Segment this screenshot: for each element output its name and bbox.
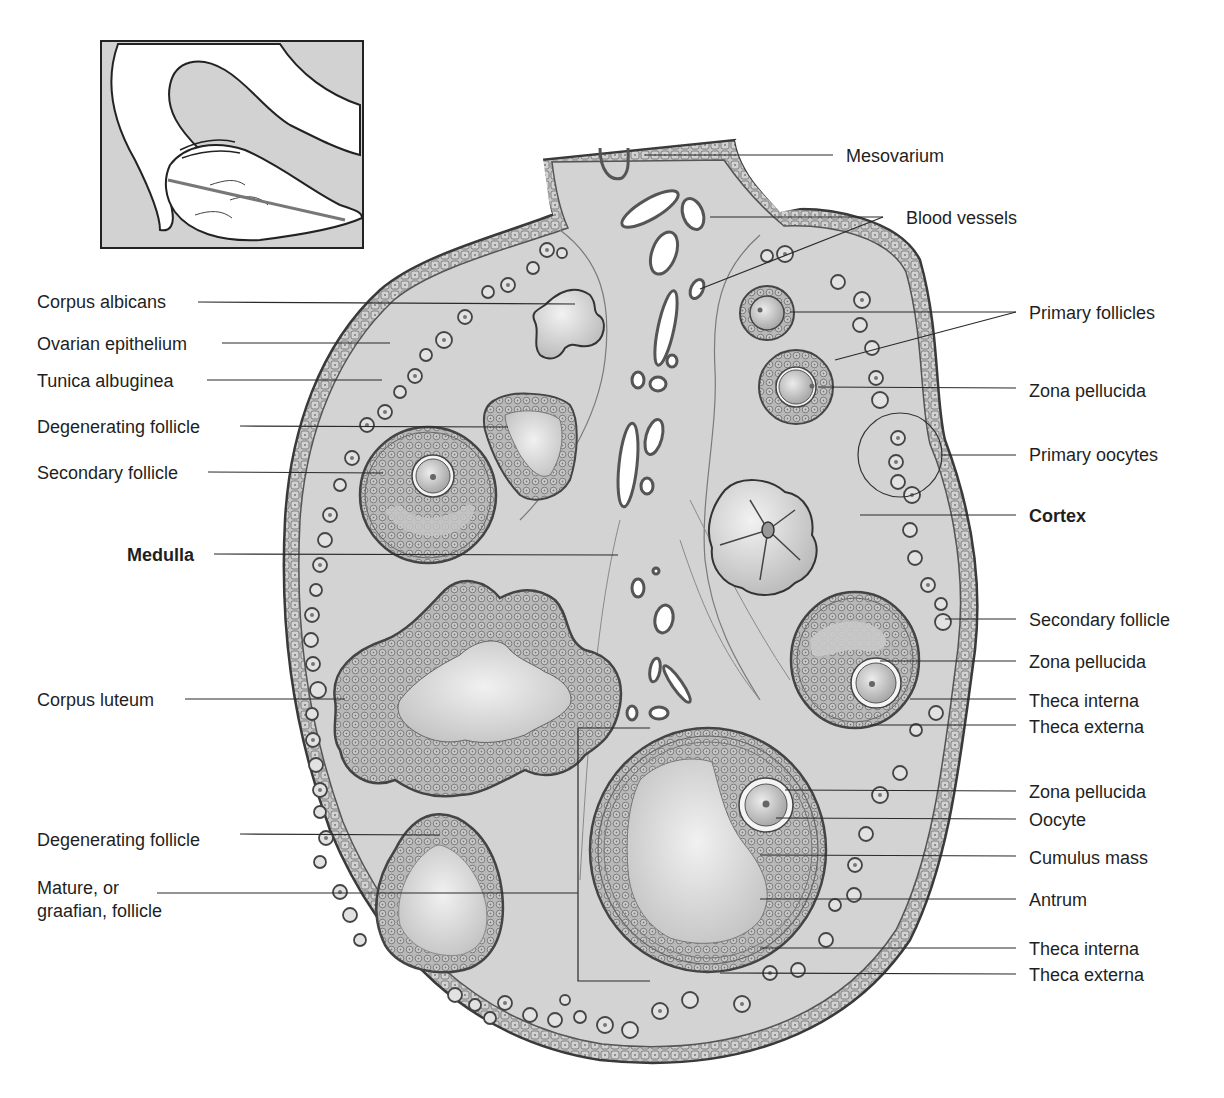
label-secondary-follicle-left: Secondary follicle <box>37 462 178 484</box>
label-theca-interna-1: Theca interna <box>1029 690 1139 712</box>
label-degenerating-follicle-upper: Degenerating follicle <box>37 416 200 438</box>
label-theca-interna-2: Theca interna <box>1029 938 1139 960</box>
label-mature-follicle-line2: graafian, follicle <box>37 900 162 922</box>
label-theca-externa-1: Theca externa <box>1029 716 1144 738</box>
ovary-diagram: Corpus albicans Ovarian epithelium Tunic… <box>0 0 1224 1098</box>
inset-sketch <box>101 41 363 248</box>
primary-follicle-1 <box>740 286 794 340</box>
mature-follicle-shape <box>590 728 826 972</box>
label-zona-pellucida-3: Zona pellucida <box>1029 781 1146 803</box>
label-primary-follicles: Primary follicles <box>1029 302 1155 324</box>
label-theca-externa-2: Theca externa <box>1029 964 1144 986</box>
label-corpus-albicans: Corpus albicans <box>37 291 166 313</box>
label-zona-pellucida-2: Zona pellucida <box>1029 651 1146 673</box>
label-primary-oocytes: Primary oocytes <box>1029 444 1158 466</box>
label-mature-follicle-line1: Mature, or <box>37 877 119 899</box>
label-tunica-albuginea: Tunica albuginea <box>37 370 173 392</box>
label-degenerating-follicle-lower: Degenerating follicle <box>37 829 200 851</box>
secondary-follicle-left-shape <box>360 427 496 563</box>
secondary-follicle-right-shape <box>791 592 919 728</box>
label-mesovarium: Mesovarium <box>846 145 944 167</box>
label-zona-pellucida-1: Zona pellucida <box>1029 380 1146 402</box>
label-corpus-luteum: Corpus luteum <box>37 689 154 711</box>
label-blood-vessels: Blood vessels <box>906 207 1017 229</box>
label-antrum: Antrum <box>1029 889 1087 911</box>
label-medulla: Medulla <box>127 544 194 566</box>
label-cortex: Cortex <box>1029 505 1086 527</box>
label-ovarian-epithelium: Ovarian epithelium <box>37 333 187 355</box>
label-oocyte: Oocyte <box>1029 809 1086 831</box>
label-secondary-follicle-right: Secondary follicle <box>1029 609 1170 631</box>
label-cumulus-mass: Cumulus mass <box>1029 847 1148 869</box>
